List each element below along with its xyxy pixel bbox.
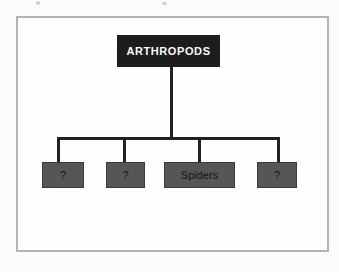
child-node-4-label: ? (274, 169, 280, 181)
child-node-1: ? (42, 162, 84, 188)
child-node-4: ? (257, 162, 297, 188)
connector-drop-3 (198, 137, 201, 163)
page-background: ARTHROPODS ? ? Spiders ? (0, 0, 339, 272)
scan-artifact (36, 1, 40, 5)
child-node-3-spiders: Spiders (164, 162, 235, 188)
connector-drop-2 (123, 137, 126, 163)
child-node-2-label: ? (122, 169, 128, 181)
child-node-1-label: ? (60, 169, 66, 181)
connector-drop-4 (277, 137, 280, 163)
connector-drop-1 (57, 137, 60, 163)
child-node-3-label: Spiders (181, 169, 218, 181)
scan-artifact (162, 2, 167, 5)
root-node-label: ARTHROPODS (126, 45, 210, 57)
connector-trunk (170, 66, 173, 139)
connector-crossbar (57, 137, 280, 140)
child-node-2: ? (106, 162, 145, 188)
root-node-arthropods: ARTHROPODS (117, 35, 220, 67)
